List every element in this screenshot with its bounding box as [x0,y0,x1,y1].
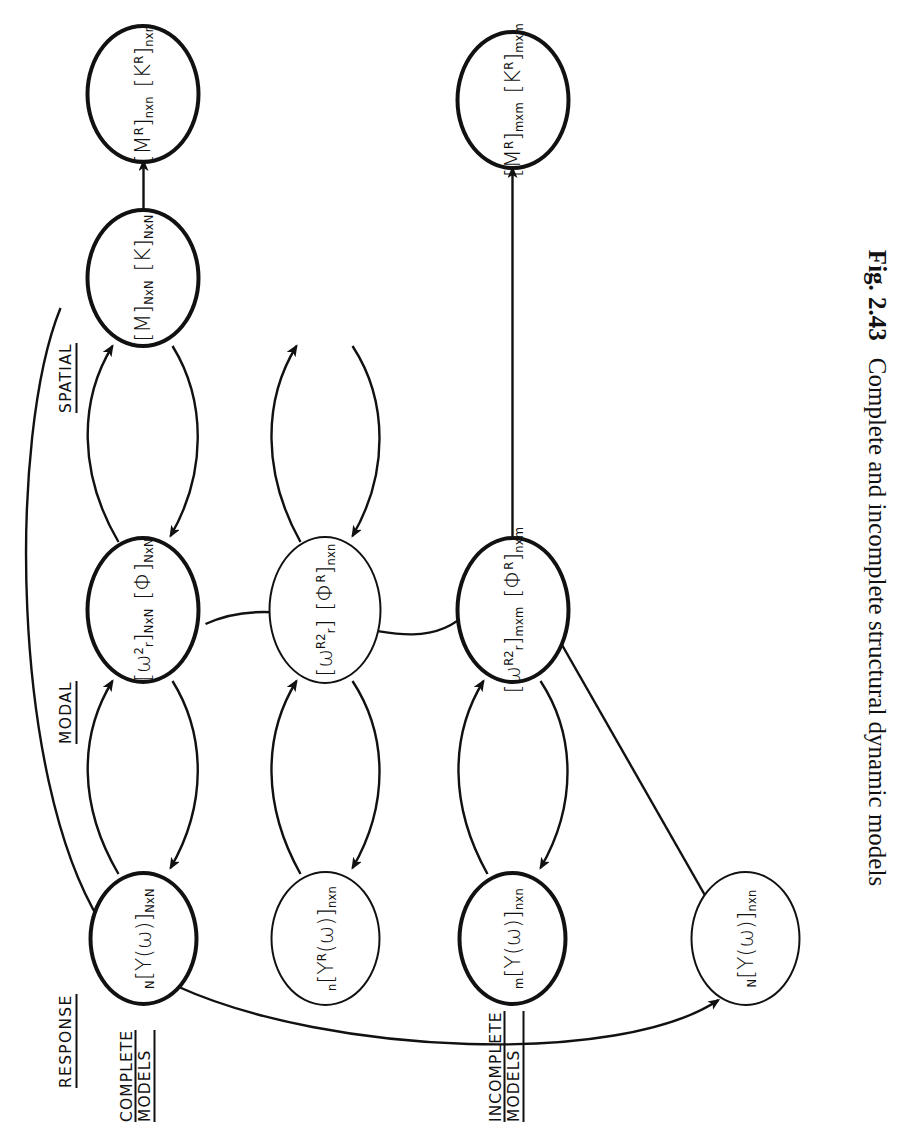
edge-r1-m1-up [87,681,118,874]
node-spatial-3-stiff-dim: mxm [512,23,526,53]
node-spatial-1-label: [M]NxN[K]NxN [130,214,155,341]
edge-r4-m3-straight [545,616,730,940]
node-modal-3-label: [ωR2r]mxm[ΦR]nxm [500,527,525,694]
row-header-complete-models: COMPLETE MODELS [118,1030,155,1122]
node-modal-2-phi-dim: nxn [324,544,338,566]
node-modal-2-omega-sup: R2 [314,633,328,649]
node-modal-1-omega-sub: r [142,642,156,647]
node-spatial-3-label: [MR]mxm[KR]mxm [500,23,525,177]
node-spatial-2-stiff-close: ] [129,47,154,56]
node-modal-1-phi-dim: NxN [142,538,156,563]
node-spatial-2-label: [MR]nxn[KR]nxn [130,25,155,163]
row-header-complete-line1: COMPLETE [118,1030,136,1122]
node-response-4-body: [Y(ω)] [732,911,757,978]
node-spatial-1-stiff-dim: NxN [142,214,156,239]
node-modal-3-phi-dim: nxm [512,527,526,553]
row-header-incomplete-models: INCOMPLETE MODELS [487,1011,524,1122]
edge-m3-r3-down [540,681,567,868]
node-response-4-presub: N [744,979,758,988]
node-modal-3-omega-sup: R2 [502,650,516,666]
node-response-3-presub: m [511,978,525,989]
node-response-1-presub: N [142,980,156,989]
node-spatial-2-mass-dim: nxn [142,96,156,118]
edge-r2-m2-up [271,681,300,874]
edge-r3-m3-up [458,681,487,874]
node-modal-3-omega: [ω [499,666,524,693]
node-spatial-1-mass: [M] [129,305,154,342]
diagram-canvas: RESPONSE MODAL SPATIAL COMPLETE MODELS I… [0,0,903,1136]
edge-r1-r4-long [176,986,718,1044]
edge-m1-r1-down [170,681,197,868]
edge-m2-r2-down [352,681,379,868]
node-response-1-body: [Y(ω)] [130,913,155,980]
node-response-2-sub: nxn [324,886,338,908]
node-modal-incomplete[interactable]: [ωR2r]mxm[ΦR]nxm [455,536,570,684]
node-modal-3-phi: [Φ [499,570,524,598]
node-response-complete-full[interactable]: N[Y(ω)]NxN [88,871,198,1006]
node-spatial-2-stiff: [K [129,64,154,87]
caption-text: Complete and incomplete structural dynam… [864,345,891,886]
node-modal-complete-full[interactable]: [ω2r]NxN[Φ]NxN [85,536,200,684]
node-spatial-3-mass: [M [499,149,524,177]
node-spatial-incomplete[interactable]: [MR]mxm[KR]mxm [455,30,570,170]
node-response-4-sub: nxn [744,889,758,911]
node-modal-1-omega-dim: NxN [142,609,156,634]
node-response-2-presub: n [324,984,338,992]
node-response-3-label: m[Y(ω)]nxn [500,888,525,989]
node-spatial-2-mass-close: ] [129,118,154,127]
node-modal-2-omega-close: ] [311,620,336,629]
node-modal-2-omega: [ω [311,649,336,676]
caption-container: Fig. 2.43 Complete and incomplete struct… [849,0,903,1136]
node-spatial-2-stiff-sup: R [132,56,146,64]
node-modal-1-omega-sup: 2 [132,647,146,655]
node-response-complete-reduced[interactable]: n[YR(ω)]nxn [270,871,380,1006]
node-modal-2-label: [ωR2r][ΦR]nxn [312,544,337,677]
node-modal-2-phi: [Φ [311,583,336,611]
node-spatial-complete-full[interactable]: [M]NxN[K]NxN [85,208,200,348]
node-spatial-2-mass: [M [129,135,154,163]
node-modal-1-label: [ω2r]NxN[Φ]NxN [130,538,155,682]
node-modal-3-phi-close: ] [499,553,524,562]
column-header-modal: MODAL [56,681,77,744]
node-spatial-3-mass-sup: R [502,141,516,149]
row-header-incomplete-line1: INCOMPLETE [487,1011,505,1122]
edge-s2-m2-down [352,346,379,536]
node-modal-complete-reduced[interactable]: [ωR2r][ΦR]nxn [268,536,381,684]
node-response-2-body: [Y [312,961,337,983]
figure-page: RESPONSE MODAL SPATIAL COMPLETE MODELS I… [0,0,903,1136]
node-modal-1-omega: [ω [129,654,154,681]
node-spatial-complete-reduced[interactable]: [MR]nxn[KR]nxn [85,24,200,164]
node-spatial-1-mass-dim: NxN [142,280,156,305]
node-response-1-sub: NxN [142,888,156,913]
node-modal-3-phi-sup: R [502,561,516,569]
node-response-1-label: N[Y(ω)]NxN [131,888,156,989]
edge-s1-m1-down [170,346,197,536]
node-spatial-3-stiff-close: ] [499,53,524,62]
node-modal-1-phi: [Φ] [129,563,154,600]
caption-label: Fig. 2.43 [864,250,891,341]
node-response-4-label: N[Y(ω)]nxn [733,889,758,987]
node-spatial-3-mass-close: ] [499,132,524,141]
node-response-2-sup: R [314,953,328,961]
node-spatial-3-mass-dim: mxm [512,102,526,132]
edge-m1-s1-up [87,346,118,542]
node-response-2-label: n[YR(ω)]nxn [313,886,338,991]
node-response-incomplete-m[interactable]: m[Y(ω)]nxn [457,871,567,1006]
node-spatial-2-stiff-dim: nxn [142,25,156,47]
node-spatial-2-mass-sup: R [132,127,146,135]
node-modal-2-omega-sub: r [324,628,338,633]
edge-m2-s2-up [271,346,300,542]
node-modal-2-phi-sup: R [314,574,328,582]
node-spatial-3-stiff: [K [499,70,524,93]
node-response-incomplete-n[interactable]: N[Y(ω)]nxn [690,871,800,1006]
node-spatial-1-stiff: [K] [129,239,154,271]
node-response-3-sub: nxn [511,888,525,910]
node-modal-3-omega-sub: r [512,645,526,650]
caption-text-inner: Complete and incomplete structural dynam… [864,358,891,886]
column-header-spatial: SPATIAL [56,343,77,413]
node-modal-1-omega-close: ] [129,633,154,642]
node-spatial-3-stiff-sup: R [502,62,516,70]
row-header-incomplete-line2: MODELS [505,1011,523,1122]
node-modal-2-phi-close: ] [311,566,336,575]
node-modal-3-omega-dim: mxm [512,607,526,637]
